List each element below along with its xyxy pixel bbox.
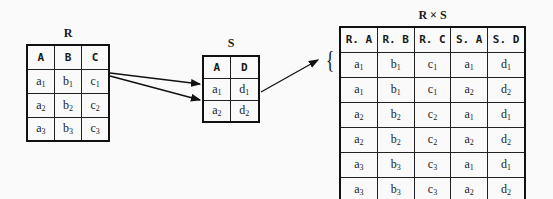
brace-icon: { [326, 45, 335, 75]
arrow-r-to-s-row2 [110, 76, 200, 100]
connector-arrows [0, 0, 553, 199]
arrow-r-to-s-row1 [110, 73, 200, 84]
arrow-s-to-product [261, 60, 318, 92]
